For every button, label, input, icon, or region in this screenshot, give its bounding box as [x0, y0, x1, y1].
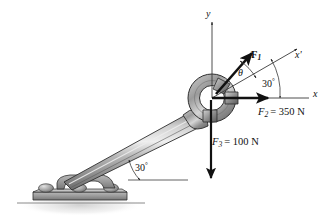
force-label-F2-value: = 350 N [270, 106, 305, 117]
base-plate [33, 192, 127, 200]
force-label-F3-subscript: 3 [218, 140, 222, 149]
axis-label-y: y [206, 9, 210, 19]
angle-label-30-base: 30° [135, 163, 148, 173]
force-label-F2-subscript: 2 [264, 110, 268, 119]
handle-highlight [69, 117, 195, 184]
angle-30-xprime-value: 30 [262, 78, 272, 89]
angle-30-base-unit: ° [145, 162, 148, 170]
angle-30-xprime-unit: ° [272, 78, 275, 86]
angle-label-30-xprime: 30° [262, 79, 275, 89]
axis-label-x-prime: x' [295, 50, 302, 60]
axis-label-x: x [313, 89, 317, 99]
handle-shadow-line [70, 122, 197, 188]
force-label-F3-value: = 100 N [224, 136, 259, 147]
force-label-F1: F1 [251, 50, 261, 62]
force-label-F3: F3 = 100 N [212, 137, 259, 149]
angle-label-theta: θ [238, 68, 243, 78]
angle-30-base-value: 30 [135, 162, 145, 173]
force-label-F1-subscript: 1 [257, 53, 261, 62]
force-label-F2: F2 = 350 N [258, 107, 305, 119]
